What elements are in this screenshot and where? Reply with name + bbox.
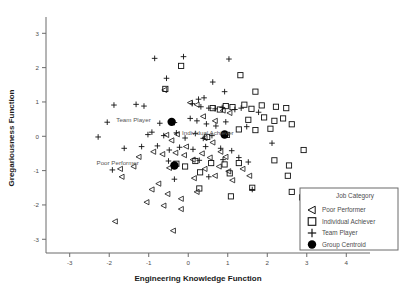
data-point [203, 144, 209, 150]
data-point [139, 144, 145, 150]
data-point [155, 143, 161, 149]
data-point [194, 118, 200, 124]
data-point [160, 152, 165, 157]
data-point [212, 118, 217, 123]
data-point [212, 173, 217, 178]
data-point [196, 96, 202, 102]
data-point [289, 122, 294, 127]
data-point [104, 119, 110, 125]
data-point [209, 160, 214, 165]
filled-circle-icon [308, 240, 316, 248]
data-point [179, 63, 184, 68]
data-point [182, 135, 188, 141]
data-point [181, 54, 187, 60]
data-point [200, 114, 205, 119]
x-tick-label: 0 [187, 259, 191, 266]
data-point [183, 144, 188, 149]
data-point [246, 117, 251, 122]
data-point [166, 158, 172, 164]
data-point [144, 200, 149, 205]
data-point [289, 189, 294, 194]
x-tick-label: 2 [266, 259, 270, 266]
data-point [164, 75, 170, 81]
data-point [173, 150, 178, 155]
data-point [112, 219, 117, 224]
data-point [165, 191, 170, 196]
x-tick-label: 1 [226, 259, 230, 266]
data-point [206, 174, 212, 180]
data-point [272, 118, 277, 123]
x-tick-label: 4 [345, 259, 349, 266]
data-point [229, 148, 235, 154]
data-point [191, 176, 196, 181]
data-point [207, 155, 212, 160]
data-point [170, 161, 178, 169]
data-point [259, 103, 264, 108]
data-point [238, 73, 243, 78]
legend-item-label: Individual Achiever [322, 218, 376, 225]
data-point [216, 164, 221, 169]
data-point [111, 102, 117, 108]
scatter-plot-figure: -3-2-101234-3-2-10123 Team PlayerIndivid… [0, 0, 410, 302]
data-point [247, 173, 252, 178]
data-point [223, 154, 228, 159]
data-point [182, 164, 187, 169]
data-point [238, 105, 244, 111]
data-point [204, 121, 210, 127]
data-point [167, 118, 175, 126]
data-point [244, 124, 250, 130]
data-point [226, 169, 231, 174]
data-point [273, 104, 278, 109]
data-point [199, 151, 204, 156]
data-point [157, 120, 163, 126]
y-axis-title: Gregariousness Function [7, 89, 16, 186]
legend-item-label: Group Centroid [322, 241, 366, 249]
data-point [253, 89, 258, 94]
data-point [240, 166, 245, 171]
data-point [169, 138, 174, 143]
x-tick-label: 3 [305, 259, 309, 266]
data-point [187, 116, 193, 122]
data-point [181, 153, 186, 158]
data-point [280, 116, 285, 121]
data-point [236, 127, 241, 132]
data-point [222, 162, 227, 167]
y-tick-label: 3 [36, 30, 40, 37]
data-point [197, 170, 202, 175]
data-point [210, 79, 216, 85]
data-point [253, 128, 258, 133]
data-point [284, 106, 289, 111]
data-point [110, 167, 116, 173]
legend-group: Job CategoryPoor PerformerIndividual Ach… [300, 188, 398, 250]
data-point [133, 102, 139, 108]
x-axis-title: Engineering Knowledge Function [134, 274, 261, 283]
data-point [268, 126, 273, 131]
data-point [170, 228, 175, 233]
data-point [164, 132, 169, 137]
centroid-annotation: Poor Performer [97, 159, 139, 166]
data-point [223, 119, 229, 125]
chart-canvas: -3-2-101234-3-2-10123 Team PlayerIndivid… [0, 0, 410, 302]
data-point [249, 187, 255, 193]
data-point [141, 103, 147, 109]
data-point [166, 147, 172, 153]
data-point [246, 159, 252, 165]
data-point [228, 194, 233, 199]
data-point [178, 196, 183, 201]
data-point [152, 56, 158, 62]
data-point [161, 203, 166, 208]
data-point [149, 187, 154, 192]
data-point [121, 145, 127, 151]
legend-title: Job Category [336, 192, 375, 200]
x-tick-label: -1 [146, 259, 152, 266]
data-point [285, 173, 290, 178]
data-point [236, 155, 242, 161]
data-point [286, 163, 291, 168]
y-tick-label: 2 [36, 64, 40, 71]
data-point [190, 147, 196, 153]
data-point [227, 110, 232, 115]
legend-item-label: Team Player [322, 229, 358, 237]
data-point [119, 174, 124, 179]
data-point [117, 166, 122, 171]
data-point [194, 102, 199, 107]
